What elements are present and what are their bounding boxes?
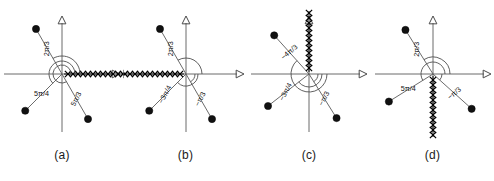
pole-marker [271, 32, 278, 39]
angle-label: −4π/3 [279, 42, 299, 61]
angle-label: 5π/4 [34, 89, 49, 98]
angle-label: −3π/4 [277, 81, 294, 102]
angle-label: −π/3 [192, 90, 207, 108]
angle-arc [439, 74, 441, 80]
poles-group [264, 32, 340, 122]
panel-b: 2π/3−3π/4−π/3(b) [124, 0, 248, 181]
panel-a: 2π/35π/45π/3(a) [0, 0, 124, 181]
pole-zero-figure: 2π/35π/45π/3(a)2π/3−3π/4−π/3(b)−4π/3−3π/… [0, 0, 494, 181]
zero-chain [64, 70, 124, 78]
panel-caption-c: (c) [247, 148, 371, 162]
panel-caption-b: (b) [124, 148, 248, 162]
pole-marker [22, 107, 29, 114]
angle-label: 5π/4 [400, 84, 415, 93]
angle-arc [190, 74, 195, 82]
angle-label: −π/3 [316, 90, 331, 108]
angle-label: −3π/4 [156, 84, 173, 105]
zero-chain [429, 76, 435, 138]
angle-label: 5π/3 [69, 90, 84, 107]
pole-marker [156, 25, 163, 32]
angle-label: 2π/3 [42, 41, 51, 56]
pole-marker [32, 25, 39, 32]
panel-caption-a: (a) [0, 148, 124, 162]
zero-chain [306, 10, 312, 72]
angle-arc [314, 74, 318, 82]
pole-marker [208, 115, 215, 122]
panel-d: 2π/35π/4−π/3(d) [371, 0, 494, 181]
pole-marker [264, 102, 271, 109]
pole-marker [145, 107, 152, 114]
pole-marker [333, 114, 340, 121]
panel-c: −4π/3−3π/4−π/3(c) [247, 0, 371, 181]
pole-marker [401, 26, 408, 33]
angle-label: 2π/3 [166, 41, 175, 56]
angle-labels-group: −4π/3−3π/4−π/3 [277, 42, 331, 107]
angle-label: 2π/3 [412, 42, 421, 57]
pole-marker [468, 105, 475, 112]
panel-caption-d: (d) [371, 148, 494, 162]
pole-marker [385, 98, 392, 105]
pole-marker [84, 115, 91, 122]
poles-group [385, 26, 475, 112]
zero-chain [124, 71, 184, 77]
